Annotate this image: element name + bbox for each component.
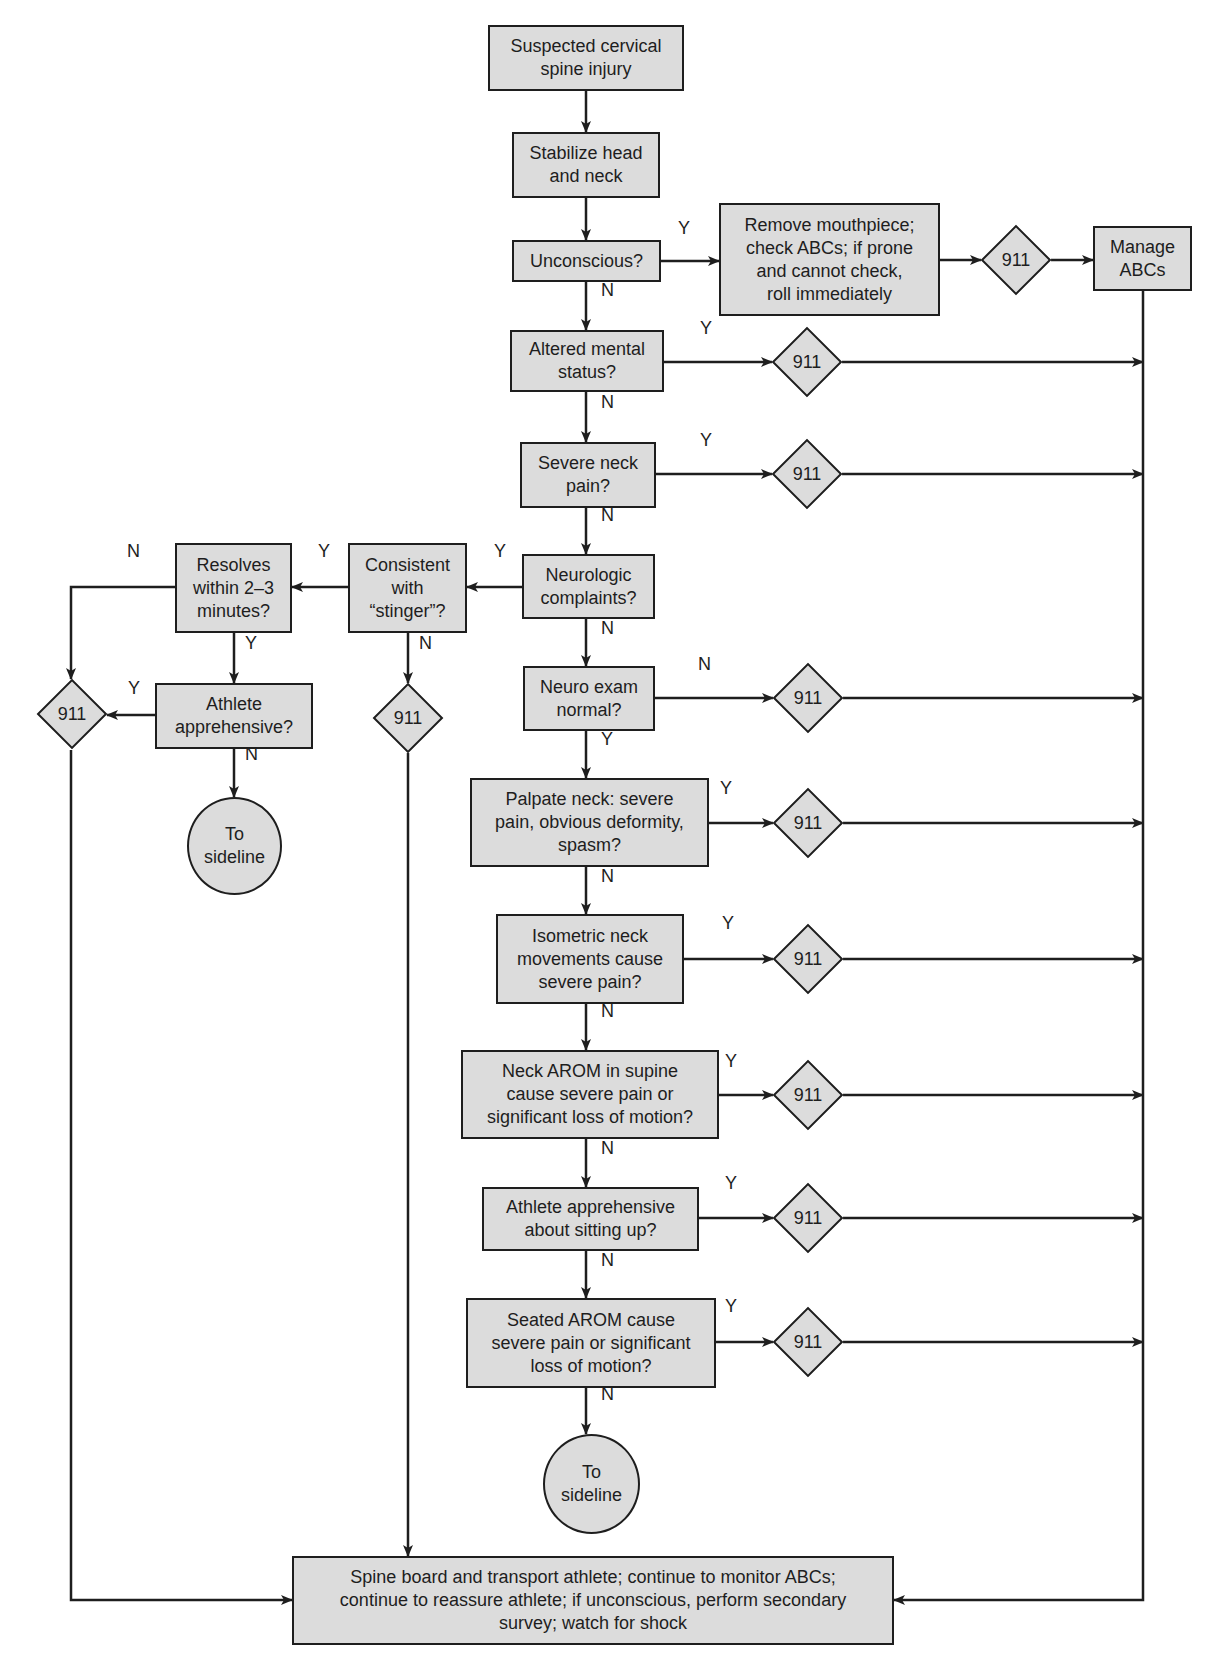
call-911-diamond-d-palpate: 911 <box>773 788 843 858</box>
yes-label: Y <box>494 541 506 562</box>
no-label: N <box>601 280 614 301</box>
connector-arrow <box>71 587 175 679</box>
diamond-label: 911 <box>772 439 842 509</box>
yes-label: Y <box>700 430 712 451</box>
process-node-resolves: Resolves within 2–3 minutes? <box>175 543 292 633</box>
diamond-label: 911 <box>773 1307 843 1377</box>
call-911-diamond-d-seated: 911 <box>773 1307 843 1377</box>
diamond-label: 911 <box>773 1183 843 1253</box>
process-node-athlete-app: Athlete apprehensive? <box>155 683 313 749</box>
diamond-label: 911 <box>37 679 107 749</box>
no-label: N <box>601 1001 614 1022</box>
process-node-spineboard: Spine board and transport athlete; conti… <box>292 1556 894 1645</box>
yes-label: Y <box>128 678 140 699</box>
terminal-node-sideline1: To sideline <box>187 797 282 895</box>
no-label: N <box>698 654 711 675</box>
yes-label: Y <box>725 1051 737 1072</box>
call-911-diamond-d-sitting: 911 <box>773 1183 843 1253</box>
process-node-stinger: Consistent with “stinger”? <box>348 543 467 633</box>
process-node-seated-arom: Seated AROM cause severe pain or signifi… <box>466 1298 716 1388</box>
no-label: N <box>601 1384 614 1405</box>
yes-label: Y <box>601 729 613 750</box>
yes-label: Y <box>725 1173 737 1194</box>
process-node-neurologic: Neurologic complaints? <box>522 554 655 619</box>
call-911-diamond-d-altered: 911 <box>772 327 842 397</box>
no-label: N <box>601 866 614 887</box>
yes-label: Y <box>700 318 712 339</box>
call-911-diamond-d-stinger: 911 <box>373 683 443 753</box>
no-label: N <box>601 392 614 413</box>
call-911-diamond-d-left: 911 <box>37 679 107 749</box>
no-label: N <box>601 505 614 526</box>
diamond-label: 911 <box>773 1060 843 1130</box>
process-node-manage: Manage ABCs <box>1093 226 1192 291</box>
call-911-diamond-d-supine: 911 <box>773 1060 843 1130</box>
no-label: N <box>601 618 614 639</box>
no-label: N <box>419 633 432 654</box>
process-node-isometric: Isometric neck movements cause severe pa… <box>496 914 684 1004</box>
diamond-label: 911 <box>773 924 843 994</box>
cervical-spine-flowchart: Suspected cervical spine injuryStabilize… <box>0 0 1217 1675</box>
process-node-palpate: Palpate neck: severe pain, obvious defor… <box>470 778 709 867</box>
process-node-unconscious: Unconscious? <box>512 240 661 282</box>
no-label: N <box>127 541 140 562</box>
no-label: N <box>601 1250 614 1271</box>
call-911-diamond-d-isometric: 911 <box>773 924 843 994</box>
diamond-label: 911 <box>981 225 1051 295</box>
process-node-altered: Altered mental status? <box>510 330 664 392</box>
process-node-remove: Remove mouthpiece; check ABCs; if prone … <box>719 203 940 316</box>
yes-label: Y <box>720 778 732 799</box>
diamond-label: 911 <box>773 788 843 858</box>
diamond-label: 911 <box>373 683 443 753</box>
process-node-neuro-exam: Neuro exam normal? <box>523 666 655 731</box>
process-node-arom-supine: Neck AROM in supine cause severe pain or… <box>461 1050 719 1139</box>
diamond-label: 911 <box>773 663 843 733</box>
yes-label: Y <box>318 541 330 562</box>
process-node-stabilize: Stabilize head and neck <box>512 132 660 198</box>
connector-arrow <box>894 291 1143 1600</box>
call-911-diamond-d-remove: 911 <box>981 225 1051 295</box>
no-label: N <box>601 1138 614 1159</box>
process-node-sitting-up: Athlete apprehensive about sitting up? <box>482 1187 699 1251</box>
process-node-severe: Severe neck pain? <box>520 442 656 508</box>
diamond-label: 911 <box>772 327 842 397</box>
no-label: N <box>245 744 258 765</box>
process-node-start: Suspected cervical spine injury <box>488 25 684 91</box>
terminal-node-sideline2: To sideline <box>543 1434 640 1534</box>
call-911-diamond-d-severe: 911 <box>772 439 842 509</box>
yes-label: Y <box>678 218 690 239</box>
yes-label: Y <box>725 1296 737 1317</box>
call-911-diamond-d-neuro: 911 <box>773 663 843 733</box>
yes-label: Y <box>245 633 257 654</box>
yes-label: Y <box>722 913 734 934</box>
